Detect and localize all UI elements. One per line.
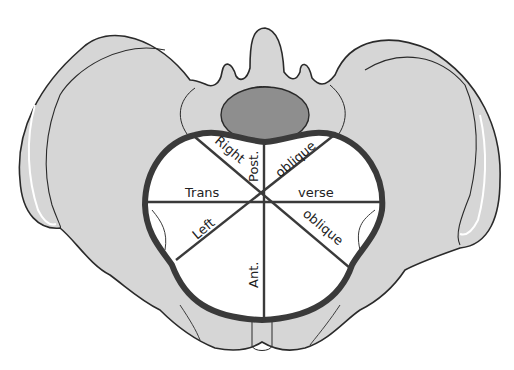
label-verse: verse	[298, 185, 334, 200]
label-ant: Ant.	[246, 262, 261, 288]
label-post: Post.	[246, 151, 261, 182]
label-trans: Trans	[184, 185, 220, 200]
pelvis-diagram: Right Post. oblique Trans verse Left obl…	[0, 0, 514, 370]
